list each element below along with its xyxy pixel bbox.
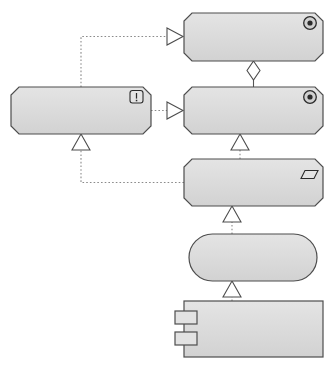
icon-layer — [0, 0, 334, 367]
goal-bullseye-icon — [304, 17, 317, 30]
principle-exclamation-icon — [130, 91, 143, 104]
requirement-parallelogram-icon — [301, 171, 318, 179]
diagram-canvas: Reduce interaction with customer Systems… — [0, 0, 334, 367]
goal-bullseye-icon — [304, 91, 317, 104]
